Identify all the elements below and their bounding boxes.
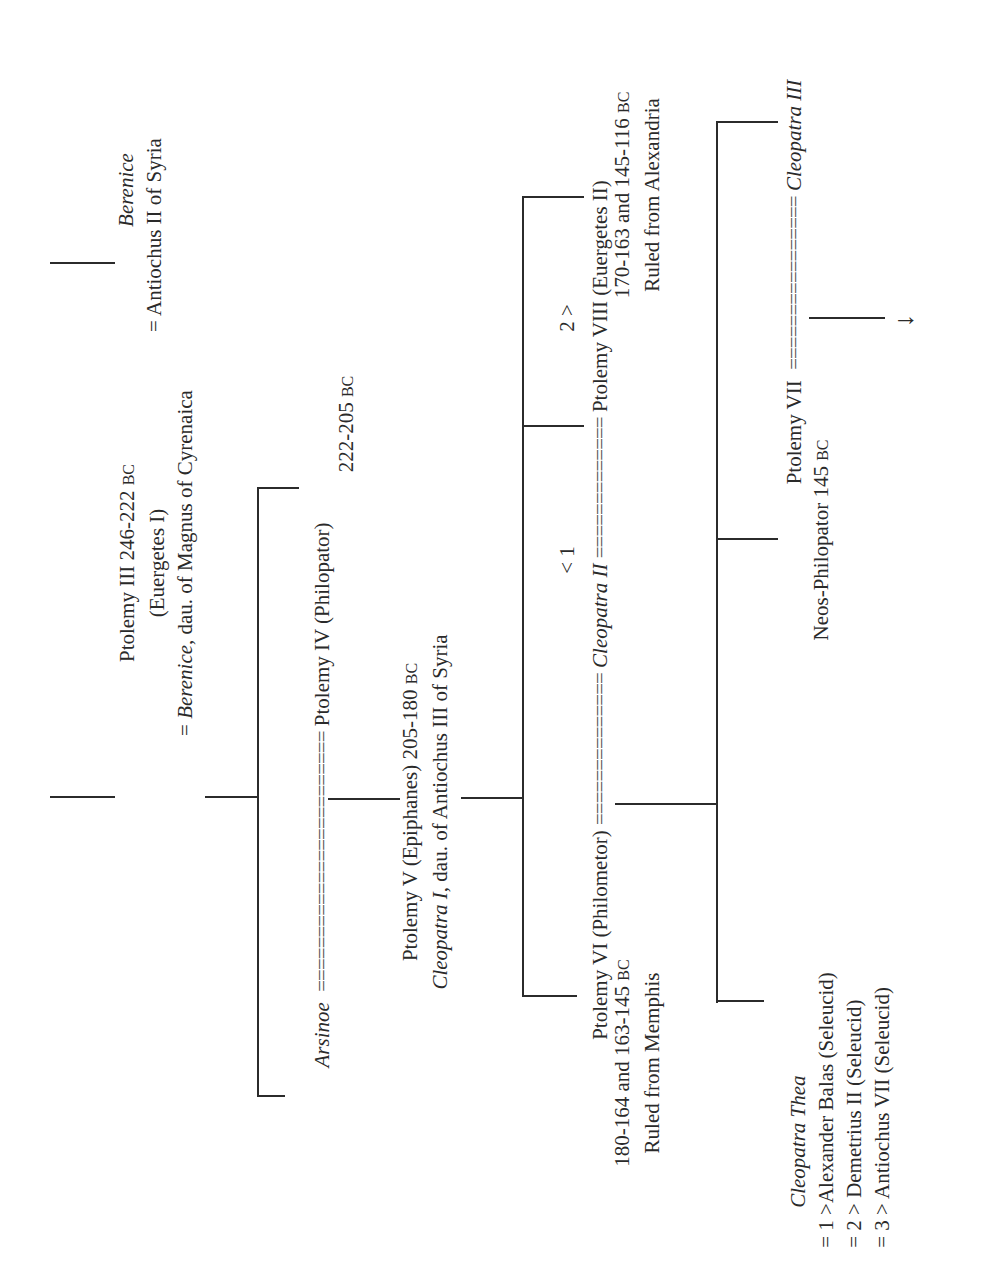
- arsinoe-ptolemy-iv-row: Arsinoe ======================== Ptolemy…: [308, 522, 336, 1067]
- ptolemy-vi-reign: 180-164 and 163-145: [610, 986, 634, 1167]
- berenice-syria-node: Berenice = Antiochus II of Syria: [112, 138, 168, 332]
- ptolemy-viii-reign: 170-163 and 145-116: [610, 118, 634, 298]
- continuation-stem: [809, 317, 885, 319]
- ptolemy-v-title: Ptolemy V (Epiphanes) 205-180: [398, 689, 422, 961]
- era-label: BC: [615, 92, 632, 113]
- ptolemy-vii-cleopatra-iii-row: Ptolemy VII ================ Cleopatra I…: [780, 80, 808, 485]
- ptolemy-v-spouse-detail: , dau. of Antiochus III of Syria: [428, 634, 452, 892]
- ptolemy-iii-epithet: (Euergetes I): [143, 390, 171, 736]
- berenice-syria-spouse: = Antiochus II of Syria: [140, 138, 168, 332]
- gen5-sibling-bar: [716, 121, 718, 1003]
- ptolemy-iii-stem: [50, 796, 115, 798]
- cleopatra-thea-spouse-1: = 1 >Alexander Balas (Seleucid): [812, 972, 840, 1248]
- arsinoe-name: Arsinoe: [310, 1002, 334, 1067]
- marriage-line: =============: [588, 417, 612, 558]
- era-label: BC: [403, 663, 420, 684]
- ptolemy-v-descent: [461, 797, 523, 799]
- ptolemy-v-stem: [328, 798, 400, 800]
- ptolemy-iii-descent: [205, 796, 258, 798]
- gen2-sibling-bar: [257, 487, 259, 1097]
- ptolemy-iii-node: Ptolemy III 246-222 BC (Euergetes I) = B…: [113, 390, 199, 736]
- marriage-sign: =: [173, 719, 197, 736]
- berenice-syria-stem: [50, 262, 115, 264]
- marriage-line: ==============: [588, 673, 612, 825]
- marriage-line: ================: [782, 196, 806, 370]
- cleopatra-thea-node: Cleopatra Thea = 1 >Alexander Balas (Sel…: [784, 972, 896, 1248]
- ptolemy-iii-title: Ptolemy III 246-222: [115, 491, 139, 662]
- gen4-sibling-bar: [522, 196, 524, 997]
- ptolemy-vi-details: 180-164 and 163-145 BC Ruled from Memphi…: [608, 959, 666, 1166]
- ptolemy-viii-tick: [522, 196, 584, 198]
- cleopatra-thea-name: Cleopatra Thea: [784, 972, 812, 1248]
- berenice-syria-name: Berenice: [112, 138, 140, 332]
- ptolemy-vii-epithet: Neos-Philopator 145 BC: [807, 440, 837, 641]
- ptolemy-iii-spouse-name: Berenice: [173, 645, 197, 719]
- ptolemy-iv-dates: 222-205 BC: [332, 376, 362, 473]
- cleopatra-ii-name: Cleopatra II: [588, 564, 612, 668]
- cleopatra-thea-tick: [716, 1000, 764, 1002]
- marriage-order-1: < 1: [553, 546, 581, 574]
- cleopatra-thea-spouse-2: = 2 > Demetrius II (Seleucid): [840, 972, 868, 1248]
- era-label: BC: [339, 376, 356, 397]
- arrow-right-icon: →: [893, 301, 919, 333]
- ptolemy-v-spouse-name: Cleopatra I: [428, 892, 452, 989]
- cleopatra-iii-name: Cleopatra III: [782, 80, 806, 191]
- ptolemy-vii-title: Ptolemy VII: [782, 380, 806, 484]
- ptolemy-iii-spouse-detail: , dau. of Magnus of Cyrenaica: [173, 390, 197, 645]
- marriage-order-2: 2 >: [553, 304, 581, 332]
- ptolemy-viii-capital: Ruled from Alexandria: [638, 92, 666, 299]
- arsinoe-tick: [257, 1095, 285, 1097]
- ptolemy-vi-cleopatra-ii-ptolemy-viii-row: Ptolemy VI (Philometor) ============== C…: [586, 180, 614, 1040]
- cleopatra-iii-tick: [716, 121, 778, 123]
- ptolemy-iv-title: Ptolemy IV (Philopator): [310, 522, 334, 726]
- era-label: BC: [120, 464, 137, 485]
- ptolemy-v-node: Ptolemy V (Epiphanes) 205-180 BC Cleopat…: [396, 634, 454, 989]
- ptolemy-vi-descent: [615, 803, 718, 805]
- era-label: BC: [615, 959, 632, 980]
- ptolemy-iv-reign: 222-205: [334, 402, 358, 472]
- ptolemy-vi-tick: [522, 995, 577, 997]
- era-label: BC: [814, 440, 831, 461]
- marriage-line: ========================: [310, 731, 334, 991]
- cleopatra-thea-spouse-3: = 3 > Antiochus VII (Seleucid): [868, 972, 896, 1248]
- ptolemy-vii-name-dates: Neos-Philopator 145: [809, 466, 833, 640]
- ptolemy-iv-tick: [257, 487, 299, 489]
- ptolemy-vi-capital: Ruled from Memphis: [638, 959, 666, 1166]
- cleopatra-ii-tick: [522, 425, 584, 427]
- ptolemy-viii-details: 170-163 and 145-116 BC Ruled from Alexan…: [608, 92, 666, 299]
- ptolemy-vii-tick: [716, 538, 778, 540]
